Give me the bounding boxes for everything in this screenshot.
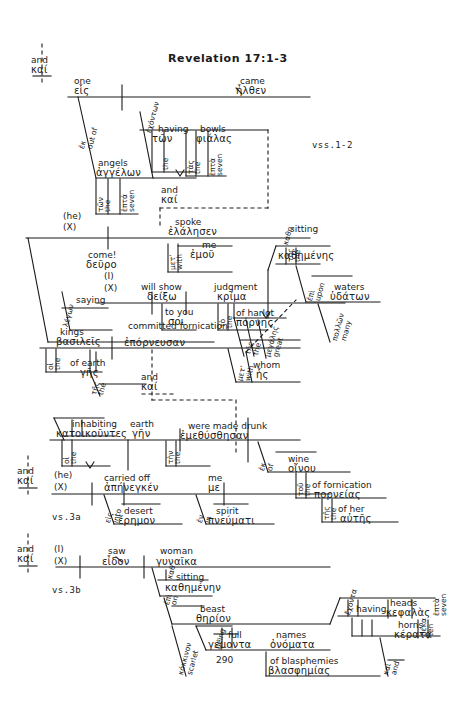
clause7-blasphemies-greek: βλασφημίας [268, 665, 330, 676]
clause1-bowls-article-english: the [194, 162, 202, 174]
clause2-pronoun-greek: ἐμοῦ [190, 249, 214, 260]
clause2-prep-greek: μετ’ [169, 254, 177, 270]
clause1-subject-greek: εἷς [74, 85, 89, 96]
clause1-participle-article-english: the [162, 158, 170, 170]
clause4-genitive-greek: γῆς [80, 367, 99, 378]
clause2-prep-english: with [176, 254, 184, 270]
clause2-subject-english: (he) [63, 211, 81, 221]
verse-marker-3: vs.3b [52, 585, 81, 595]
clause7-names-greek: ὀνόματα [270, 639, 315, 650]
clause3-verb-greek: δείξω [147, 291, 177, 302]
verse-marker-1: vss.1-2 [312, 140, 353, 150]
clause5-wine-article-english: the [304, 484, 312, 496]
conjunction-and-4-greek: καί [17, 475, 33, 486]
clause7-verb-english: saw [108, 546, 126, 556]
conjunction-and-5-greek: καί [17, 553, 33, 564]
clause1-object-greek: ἀγγέλων [96, 167, 141, 178]
conjunction-and-2-greek: καί [161, 194, 177, 205]
clause4-verb-greek: ἐπόρνευσαν [124, 337, 185, 348]
conjunction-and-1-greek: καί [31, 64, 47, 75]
clause1-bowls-article-greek: τὰς [187, 160, 195, 174]
clause5-genitive-article-english: the [330, 508, 338, 520]
clause4-subject-article-english: the [54, 358, 62, 370]
clause1-number-english: seven [128, 190, 136, 212]
clause6-verb-greek: ἀπήνεγκέν [104, 482, 159, 493]
clause3-genitive-greek: πόρνης [236, 317, 273, 328]
clause3-subject-english: (I) [104, 271, 114, 281]
clause3-subject-placeholder: (X) [104, 283, 117, 293]
clause3-waters-greek: ὑδάτων [330, 291, 370, 302]
clause1-bowls-number-english: seven [216, 154, 224, 176]
clause5-subject-greek: κατοικοῦντες [56, 428, 127, 439]
conjunction-and-3-greek: καί [141, 381, 157, 392]
clause7-having-english: having [356, 604, 386, 614]
clause5-object-greek: γῆν [132, 428, 150, 439]
verse-marker-2: vs.3a [52, 512, 81, 522]
clause7-object-english: woman [160, 546, 193, 556]
clause7-subject-placeholder: (X) [54, 556, 67, 566]
clause4-subject-article-greek: οἱ [47, 363, 55, 370]
clause5-verb-greek: ἐμεθύσθησαν [180, 430, 249, 441]
clause5-subject-article-english: the [70, 452, 78, 464]
clause3-participle-article-greek: τῆς [287, 248, 295, 262]
clause1-number-greek: ἑπτά [121, 194, 129, 212]
clause5-wine-greek: οἴνου [288, 463, 316, 474]
clause1-article-english: the [104, 200, 112, 212]
clause6-subject-placeholder: (X) [54, 482, 67, 492]
clause5-genitive-article-greek: τῆς [323, 506, 331, 520]
clause2-subject-placeholder: (X) [63, 222, 76, 232]
clause1-article-greek: τῶν [97, 197, 105, 212]
clause1-bowls-greek: φιάλας [196, 133, 232, 144]
clause7-horns-number-greek: δέκα [420, 618, 428, 636]
clause6-means-greek: πνεύματι [208, 515, 255, 526]
clause7-participle-greek: καθημένην [165, 582, 221, 593]
clause6-place-greek: ἔρημον [118, 515, 155, 526]
clause5-object-article-greek: τὴν [167, 451, 175, 464]
clause7-verb-greek: εἶδον [102, 556, 130, 567]
clause4-subject-greek: βασιλεῖς [56, 336, 101, 347]
clause5-object-article-english: the [174, 452, 182, 464]
page-title: Revelation 17:1-3 [168, 52, 288, 65]
clause1-participle-article-greek: τῶν [152, 133, 173, 144]
clause7-heads-number-english: seven [440, 594, 448, 616]
clause7-horns-number-english: ten [427, 624, 435, 636]
clause4-relative-greek: ἧς [256, 369, 269, 380]
clause2-verb-greek: ἐλάλησεν [168, 226, 217, 237]
clause7-beast-greek: θηρίον [196, 613, 231, 624]
page-number: 290 [216, 655, 233, 665]
clause7-participle-english: sitting [176, 572, 204, 582]
clause1-bowls-number-greek: ἑπτὰ [209, 158, 217, 176]
clause6-object-greek: με [208, 482, 220, 493]
clause5-genitive-greek: πορνείας [314, 489, 361, 500]
clause3-participle-article-english: the [294, 250, 302, 262]
clause6-subject-english: (he) [54, 470, 72, 480]
clause5-subject-article-greek: οἱ [63, 457, 71, 464]
clause3-object-greek: κρίμα [217, 291, 247, 302]
clause1-verb-greek: ἦλθεν [236, 85, 266, 96]
clause7-heads-number-greek: ἑπτὰ [433, 598, 441, 616]
clause5-wine-article-greek: τοῦ [297, 483, 305, 496]
clause7-full-greek: γέμοντα [208, 639, 251, 650]
clause7-subject-english: (I) [54, 544, 64, 554]
clause7-heads-greek: κεφαλὰς [386, 607, 430, 618]
clause2-command-greek: δεῦρο [86, 259, 117, 270]
clause2-participle-english: saying [76, 295, 105, 305]
clause5-possessive-greek: αὐτῆς [340, 513, 372, 524]
clause4-verb-english: committed fornication [128, 321, 228, 331]
diagram-sheet: Revelation 17:1-3 290 vss.1-2 vs.3a vs.3… [0, 0, 469, 713]
